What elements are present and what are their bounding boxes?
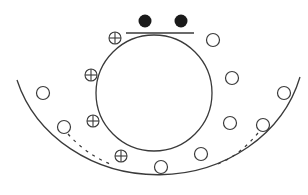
plus-circle-icon <box>87 115 99 127</box>
plus-circle-icon <box>115 150 127 162</box>
open-circle-icon <box>224 117 237 130</box>
dashed-path <box>218 133 258 164</box>
filled-dot-icon <box>139 15 152 28</box>
plus-circles <box>85 32 127 162</box>
open-circle-icon <box>37 87 50 100</box>
inner-circle-group <box>96 33 212 151</box>
particle-ring-diagram <box>0 0 308 195</box>
open-circle-icon <box>58 121 71 134</box>
dashed-paths <box>68 133 258 164</box>
filled-dot-icon <box>175 15 188 28</box>
inner-circle <box>96 35 212 151</box>
filled-dots <box>139 15 188 28</box>
plus-circle-icon <box>85 69 97 81</box>
open-circle-icon <box>278 87 291 100</box>
open-circle-icon <box>155 161 168 174</box>
open-circle-icon <box>195 148 208 161</box>
open-circle-icon <box>207 34 220 47</box>
plus-circle-icon <box>109 32 121 44</box>
open-circle-icon <box>257 119 270 132</box>
open-circles <box>37 34 291 174</box>
open-circle-icon <box>226 72 239 85</box>
